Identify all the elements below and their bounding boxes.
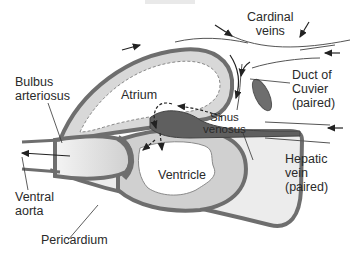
- label-sinus-venosus: Sinus venosus: [203, 111, 246, 135]
- arrow-icon: [122, 45, 140, 50]
- heart-diagram: Cardinal veins Bulbus arteriosus Atrium …: [0, 0, 355, 257]
- label-ventral-aorta: Ventral aorta: [15, 190, 54, 218]
- arrow-icon: [300, 22, 309, 37]
- bulbus-arteriosus-shape: [55, 136, 131, 178]
- heart-illustration: [0, 0, 355, 257]
- label-hepatic-vein: Hepatic vein (paired): [285, 152, 328, 194]
- duct-of-cuvier-shape: [248, 77, 275, 114]
- cropped-heading: [145, 0, 195, 4]
- label-cardinal-veins: Cardinal veins: [247, 10, 294, 38]
- arrow-icon: [215, 25, 232, 36]
- label-atrium: Atrium: [121, 88, 157, 102]
- label-ventricle: Ventricle: [158, 168, 206, 182]
- label-duct-of-cuvier: Duct of Cuvier (paired): [292, 68, 335, 110]
- label-pericardium: Pericardium: [41, 233, 108, 247]
- label-bulbus-arteriosus: Bulbus arteriosus: [15, 75, 70, 103]
